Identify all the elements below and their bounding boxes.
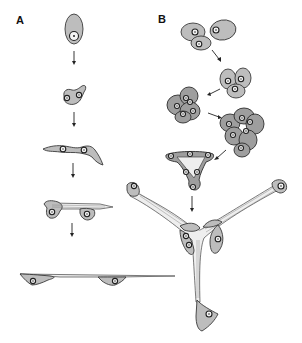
panel-a (20, 14, 175, 285)
panel-a-stage-1-cell (65, 14, 83, 44)
panel-b (127, 18, 287, 331)
panel-a-stage-3-cells (43, 146, 103, 165)
panel-b-stage-4-aggregate (220, 108, 264, 157)
panel-a-arrow-3 (71, 163, 75, 178)
panel-b-arrow-1 (212, 50, 221, 62)
panel-b-arrow-3 (208, 113, 222, 119)
panel-a-stage-4-cells (44, 201, 113, 220)
panel-b-stage-3-aggregate (167, 87, 200, 123)
panel-b-stage-2-cluster (220, 68, 251, 98)
panel-b-stage-6-branching (127, 180, 287, 331)
panel-a-arrow-2 (72, 112, 76, 127)
cell-diagram (0, 0, 302, 343)
panel-a-stage-2-cell (64, 85, 86, 104)
panel-a-arrow-4 (70, 223, 74, 237)
panel-b-arrow-5 (190, 196, 194, 212)
panel-b-stage-5-network (166, 151, 214, 190)
panel-b-arrow-4 (214, 150, 226, 160)
panel-b-arrow-2 (207, 89, 220, 96)
panel-a-arrow-1 (72, 51, 76, 65)
panel-b-stage-1-cells (181, 18, 238, 50)
panel-a-stage-5-strand (20, 274, 175, 285)
